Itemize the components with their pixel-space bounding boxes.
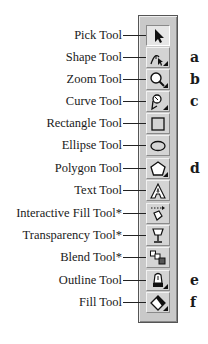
leader-line	[123, 302, 146, 303]
callout-letter: b	[190, 71, 200, 87]
flyout-indicator-icon	[163, 284, 168, 289]
leader-line	[123, 145, 146, 146]
curve-tool-button[interactable]	[146, 91, 170, 112]
leader-line	[123, 257, 146, 258]
tool-label: Shape Tool	[66, 49, 122, 65]
tool-row-pick: Pick Tool	[0, 25, 208, 47]
tool-label: Outline Tool	[59, 272, 122, 288]
blend-squares-icon	[149, 249, 167, 267]
blend-tool-button[interactable]	[146, 247, 170, 268]
zoom-tool-button[interactable]	[146, 69, 170, 90]
interactive-fill-icon	[149, 205, 167, 223]
flyout-indicator-icon	[163, 61, 168, 66]
tool-row-outline: Outline Tool e	[0, 270, 208, 292]
text-a-icon	[149, 182, 167, 200]
leader-line	[123, 190, 146, 191]
transparency-tool-button[interactable]	[146, 225, 170, 246]
callout-letter: e	[190, 272, 199, 288]
tool-row-shape: Shape Tool a	[0, 47, 208, 69]
leader-line	[123, 213, 146, 214]
tool-label: Fill Tool	[79, 294, 122, 310]
tool-label: Zoom Tool	[67, 71, 123, 87]
polygon-tool-button[interactable]	[146, 158, 170, 179]
flyout-indicator-icon	[163, 306, 168, 311]
outline-tool-button[interactable]	[146, 270, 170, 291]
rectangle-tool-button[interactable]	[146, 113, 170, 134]
tool-label: Rectangle Tool	[46, 115, 122, 131]
tool-row-rectangle: Rectangle Tool	[0, 113, 208, 135]
leader-line	[123, 57, 146, 58]
tool-label: Polygon Tool	[55, 160, 122, 176]
tool-label: Pick Tool	[74, 27, 122, 43]
tool-row-blend: Blend Tool*	[0, 247, 208, 269]
wine-glass-icon	[149, 227, 167, 245]
tool-row-curve: Curve Tool c	[0, 91, 208, 113]
tool-label: Blend Tool*	[60, 249, 122, 265]
arrow-pointer-icon	[149, 27, 167, 45]
leader-line	[123, 35, 146, 36]
callout-letter: a	[190, 49, 199, 65]
tool-label: Ellipse Tool	[62, 137, 122, 153]
ellipse-tool-button[interactable]	[146, 135, 170, 156]
fill-tool-button[interactable]	[146, 292, 170, 313]
tool-row-zoom: Zoom Tool b	[0, 69, 208, 91]
leader-line	[123, 280, 146, 281]
tool-row-ellipse: Ellipse Tool	[0, 135, 208, 157]
callout-letter: d	[190, 160, 200, 176]
tool-row-interactive-fill: Interactive Fill Tool*	[0, 203, 208, 225]
leader-line	[123, 123, 146, 124]
rectangle-icon	[149, 115, 167, 133]
flyout-indicator-icon	[163, 83, 168, 88]
leader-line	[123, 235, 146, 236]
callout-letter: c	[190, 93, 199, 109]
ellipse-icon	[149, 137, 167, 155]
tool-label: Curve Tool	[66, 93, 122, 109]
interactive-fill-tool-button[interactable]	[146, 203, 170, 224]
tool-row-text: Text Tool	[0, 180, 208, 202]
pick-tool-button[interactable]	[146, 25, 170, 46]
shape-tool-button[interactable]	[146, 47, 170, 68]
tool-row-fill: Fill Tool f	[0, 292, 208, 314]
flyout-indicator-icon	[163, 172, 168, 177]
tool-label: Text Tool	[74, 182, 122, 198]
flyout-indicator-icon	[163, 105, 168, 110]
callout-letter: f	[190, 294, 196, 310]
tool-row-polygon: Polygon Tool d	[0, 158, 208, 180]
tool-label: Transparency Tool*	[23, 227, 122, 243]
tool-row-transparency: Transparency Tool*	[0, 225, 208, 247]
text-tool-button[interactable]	[146, 180, 170, 201]
leader-line	[123, 101, 146, 102]
leader-line	[123, 168, 146, 169]
tool-label: Interactive Fill Tool*	[16, 205, 122, 221]
leader-line	[123, 79, 146, 80]
